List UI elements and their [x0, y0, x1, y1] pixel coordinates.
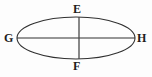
- vertex-label-bottom: F: [73, 60, 80, 72]
- ellipse-diagram: E G H F: [0, 0, 152, 77]
- vertex-label-right: H: [137, 32, 146, 44]
- vertex-label-top: E: [73, 3, 81, 15]
- vertex-label-left: G: [4, 32, 13, 44]
